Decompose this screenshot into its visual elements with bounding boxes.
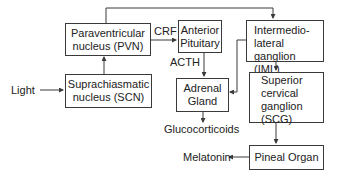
pvn-line1: Paraventricular <box>71 27 145 40</box>
crf-label: CRF <box>154 25 177 38</box>
scn-line1: Suprachiasmatic <box>68 78 149 91</box>
scg-line3: ganglion <box>261 100 323 113</box>
scg-node: Superior cervical ganglion (SCG) <box>249 72 324 123</box>
pituitary-line2: Pituitary <box>180 37 220 50</box>
scn-node: Suprachiasmatic nucleus (SCN) <box>65 74 152 108</box>
scg-line4: (SCG) <box>261 113 323 126</box>
scg-line1: Superior <box>261 74 323 87</box>
iml-line1: Intermedio- <box>254 24 323 37</box>
arrow-iml-to-adrenal <box>230 40 246 92</box>
adrenal-line1: Adrenal <box>184 82 222 95</box>
scg-line2: cervical <box>261 87 323 100</box>
adrenal-line2: Gland <box>188 95 217 108</box>
pineal-node: Pineal Organ <box>249 145 324 170</box>
pvn-line2: nucleus (PVN) <box>73 40 144 53</box>
pineal-line1: Pineal Organ <box>254 151 318 164</box>
light-label: Light <box>11 84 35 97</box>
glucocorticoids-label: Glucocorticoids <box>164 123 239 136</box>
scn-line2: nucleus (SCN) <box>73 91 145 104</box>
pituitary-line1: Anterior <box>181 24 220 37</box>
acth-label: ACTH <box>170 56 200 69</box>
iml-line2: lateral ganglion <box>254 37 323 63</box>
anterior-pituitary-node: Anterior Pituitary <box>178 20 222 53</box>
pvn-node: Paraventricular nucleus (PVN) <box>65 23 151 56</box>
adrenal-node: Adrenal Gland <box>176 78 229 112</box>
iml-node: Intermedio- lateral ganglion (IML) <box>246 20 324 62</box>
melatonin-label: Melatonin <box>183 151 231 164</box>
